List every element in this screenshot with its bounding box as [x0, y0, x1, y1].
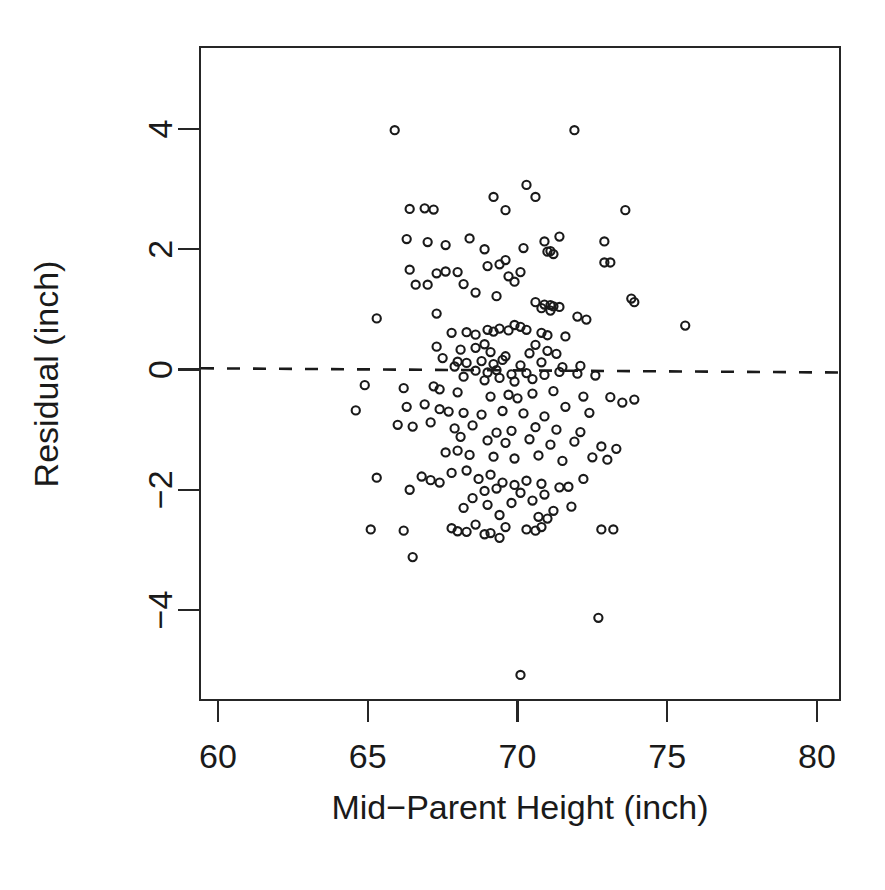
x-tick-label: 80	[798, 737, 836, 775]
residual-scatter-figure: 6065707580 −4−2024 Mid−Parent Height (in…	[0, 0, 885, 890]
y-tick-label: −4	[141, 591, 179, 630]
x-tick-label: 75	[648, 737, 686, 775]
scatter-plot-canvas: 6065707580 −4−2024 Mid−Parent Height (in…	[0, 0, 885, 890]
y-tick-label: 4	[141, 120, 179, 139]
y-axis-title: Residual (inch)	[27, 261, 65, 488]
y-tick-label: 0	[141, 360, 179, 379]
x-tick-label: 70	[499, 737, 537, 775]
x-tick-label: 60	[199, 737, 237, 775]
y-tick-label: −2	[141, 470, 179, 509]
y-tick-label: 2	[141, 240, 179, 259]
figure-background	[0, 0, 885, 890]
x-tick-label: 65	[349, 737, 387, 775]
x-axis-title: Mid−Parent Height (inch)	[331, 788, 708, 826]
